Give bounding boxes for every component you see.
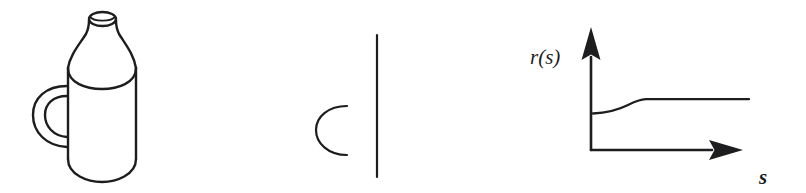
bottle-with-handle-illustration — [0, 0, 200, 193]
shoulder-seam-arc — [68, 68, 136, 89]
panel-radius-profile-plot: r(s) s — [460, 0, 806, 193]
body-bottom-curve — [68, 159, 136, 182]
neck-left-flank — [68, 20, 89, 68]
data-curve-r-of-s — [593, 99, 749, 113]
panel-cross-section-profile — [200, 0, 460, 193]
radius-profile-chart: r(s) s — [460, 0, 806, 193]
y-axis-label: r(s) — [530, 45, 560, 69]
neck-right-flank — [116, 20, 136, 68]
profile-arc-illustration — [200, 0, 460, 193]
panel-bottle-drawing — [0, 0, 200, 193]
x-axis-label: s — [758, 165, 767, 189]
x-axis-arrowhead-icon — [709, 140, 743, 160]
profile-c-arc — [316, 106, 347, 155]
mouth-opening-arc — [90, 17, 115, 21]
handle-outer-arc — [33, 86, 67, 147]
handle-inner-arc — [45, 96, 67, 137]
figure-root: r(s) s — [0, 0, 806, 193]
y-axis-arrowhead-icon — [582, 27, 601, 60]
